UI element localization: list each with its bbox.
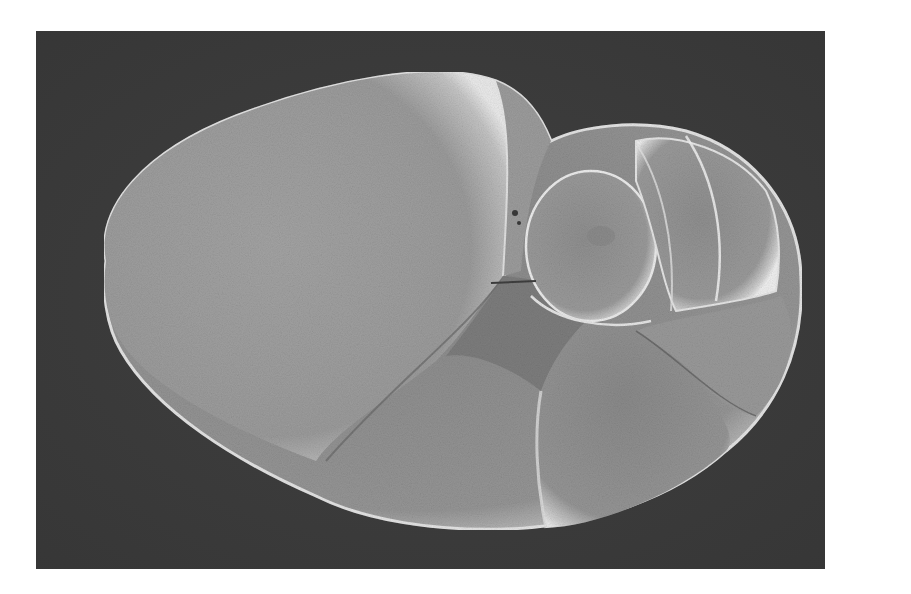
pit bbox=[512, 210, 518, 216]
sem-image: Grayscale SEM image of a foraminifera sh… bbox=[36, 31, 825, 569]
pit bbox=[517, 221, 521, 225]
foraminifera-shell-illustration bbox=[36, 31, 825, 569]
page: Grayscale SEM image of a foraminifera sh… bbox=[0, 0, 911, 594]
spiral-chamber-1 bbox=[526, 171, 656, 321]
spire-center bbox=[587, 226, 615, 246]
